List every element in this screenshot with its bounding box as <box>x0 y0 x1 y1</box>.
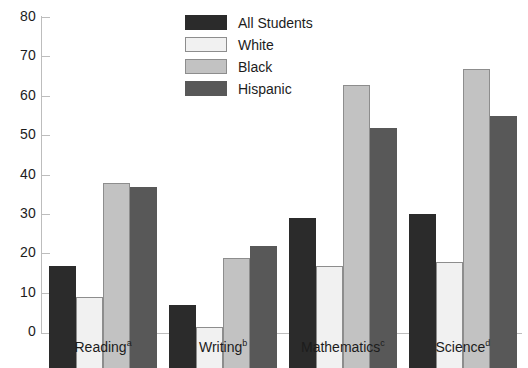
y-tick-20: 20 <box>0 247 50 261</box>
y-tick-mark <box>42 17 50 18</box>
chart-legend: All StudentsWhiteBlackHispanic <box>185 13 313 101</box>
x-label-footnote-marker: c <box>380 338 385 348</box>
legend-swatch-icon <box>185 81 227 96</box>
x-label-text: Science <box>436 339 486 355</box>
y-tick-10: 10 <box>0 287 50 301</box>
bar-science-black <box>463 69 490 368</box>
y-tick-label: 60 <box>20 87 36 103</box>
legend-label: Hispanic <box>238 81 292 97</box>
legend-item-black: Black <box>185 57 313 76</box>
x-label-reading: Readinga <box>75 339 132 355</box>
legend-swatch-icon <box>185 15 227 30</box>
y-tick-label: 50 <box>20 126 36 142</box>
legend-swatch-icon <box>185 37 227 52</box>
legend-label: White <box>238 37 274 53</box>
bars <box>49 53 157 368</box>
legend-item-all-students: All Students <box>185 13 313 32</box>
bar-group-science <box>409 53 517 368</box>
y-tick-50: 50 <box>0 129 50 143</box>
x-label-text: Writing <box>199 339 242 355</box>
y-tick-label: 10 <box>20 284 36 300</box>
bar-science-all-students <box>409 214 436 368</box>
x-label-footnote-marker: a <box>127 338 132 348</box>
bar-chart: 01020304050607080 ReadingaWritingbMathem… <box>0 0 528 368</box>
y-tick-80: 80 <box>0 11 50 25</box>
x-label-footnote-marker: d <box>485 338 490 348</box>
y-tick-0: 0 <box>0 326 50 340</box>
y-tick-label: 20 <box>20 244 36 260</box>
x-label-science: Scienced <box>436 339 491 355</box>
x-label-text: Mathematics <box>301 339 380 355</box>
bar-mathematics-hispanic <box>370 128 397 368</box>
bar-writing-all-students <box>169 305 196 368</box>
x-label-footnote-marker: b <box>242 338 247 348</box>
legend-item-white: White <box>185 35 313 54</box>
legend-label: Black <box>238 59 272 75</box>
x-label-writing: Writingb <box>199 339 247 355</box>
bar-group-reading <box>49 53 157 368</box>
x-label-text: Reading <box>75 339 127 355</box>
bar-reading-all-students <box>49 266 76 368</box>
x-label-mathematics: Mathematicsc <box>301 339 385 355</box>
y-tick-label: 0 <box>28 323 36 339</box>
y-tick-30: 30 <box>0 208 50 222</box>
legend-swatch-icon <box>185 59 227 74</box>
y-tick-70: 70 <box>0 50 50 64</box>
bars <box>409 53 517 368</box>
legend-item-hispanic: Hispanic <box>185 79 313 98</box>
y-tick-label: 80 <box>20 8 36 24</box>
bar-mathematics-black <box>343 85 370 368</box>
bar-reading-hispanic <box>130 187 157 368</box>
bar-science-hispanic <box>490 116 517 368</box>
y-tick-60: 60 <box>0 90 50 104</box>
legend-label: All Students <box>238 15 313 31</box>
y-tick-40: 40 <box>0 169 50 183</box>
bar-writing-hispanic <box>250 246 277 368</box>
bar-reading-white <box>76 297 103 368</box>
y-tick-label: 30 <box>20 205 36 221</box>
y-tick-label: 40 <box>20 166 36 182</box>
y-tick-label: 70 <box>20 47 36 63</box>
